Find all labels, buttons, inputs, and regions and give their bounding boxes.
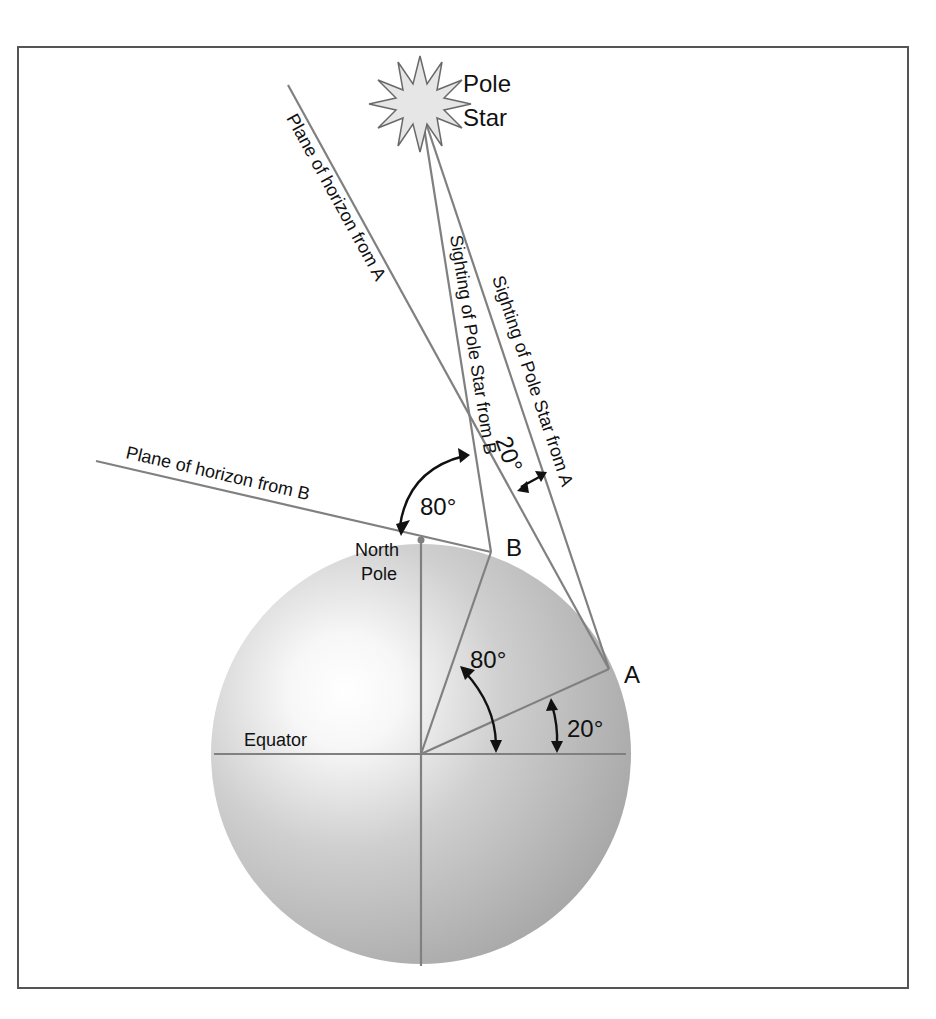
angle-b-latitude-label: 80° <box>470 646 506 673</box>
pole-star-latitude-diagram: Pole Star Plane of horizon from A Plane … <box>0 0 936 1019</box>
point-a-label: A <box>624 661 640 688</box>
angle-b-horizon-label: 80° <box>420 493 456 520</box>
equator-label: Equator <box>244 730 307 750</box>
angle-a-horizon-label: 20° <box>490 432 528 475</box>
pole-star-icon <box>369 56 471 152</box>
pole-star-label-line2: Star <box>463 104 507 131</box>
north-pole-label-line1: North <box>355 540 399 560</box>
point-b-label: B <box>506 534 522 561</box>
north-pole-label-line2: Pole <box>361 564 397 584</box>
arrowhead-icon <box>517 481 529 493</box>
pole-star-label-line1: Pole <box>463 70 511 97</box>
horizon-a-label: Plane of horizon from A <box>282 110 390 284</box>
angle-a-latitude-label: 20° <box>567 715 603 742</box>
arrowhead-icon <box>458 448 470 463</box>
